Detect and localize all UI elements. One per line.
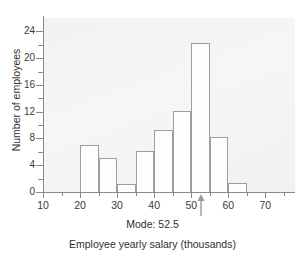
x-axis-tick (117, 193, 118, 198)
y-axis-tick (36, 165, 43, 166)
y-axis-minor-tick (38, 179, 43, 180)
y-axis-tick (36, 138, 43, 139)
x-axis-minor-tick (62, 193, 63, 196)
y-axis-minor-tick (38, 72, 43, 73)
mode-annotation-label: Mode: 52.5 (0, 218, 305, 230)
x-axis-tick (228, 193, 229, 198)
y-axis-tick-label: 0 (7, 187, 35, 197)
y-axis-line (43, 16, 44, 193)
y-axis-minor-tick (38, 98, 43, 99)
histogram-bar (154, 130, 173, 192)
y-axis-tick-label: 24 (7, 26, 35, 36)
y-axis-minor-tick (38, 152, 43, 153)
y-axis-tick (36, 31, 43, 32)
x-axis-tick (154, 193, 155, 198)
histogram-bar (210, 137, 229, 192)
x-axis-tick-label: 40 (139, 199, 169, 211)
histogram-bar (80, 145, 99, 192)
y-axis-minor-tick (38, 45, 43, 46)
y-axis-title: Number of employees (10, 40, 22, 160)
x-axis-tick-label: 10 (28, 199, 58, 211)
histogram-bar (228, 183, 247, 192)
x-axis-tick-label: 20 (65, 199, 95, 211)
x-axis-tick (80, 193, 81, 198)
mode-arrow-icon (197, 194, 205, 216)
histogram-bar (136, 151, 155, 192)
x-axis-tick-label: 60 (213, 199, 243, 211)
x-axis-minor-tick (173, 193, 174, 196)
histogram-bar (173, 111, 192, 192)
x-axis-tick-label: 30 (102, 199, 132, 211)
x-axis-tick (191, 193, 192, 198)
x-axis-minor-tick (284, 193, 285, 196)
histogram-bar (99, 158, 118, 192)
histogram-bar (191, 43, 210, 192)
x-axis-minor-tick (99, 193, 100, 196)
x-axis-minor-tick (210, 193, 211, 196)
y-axis-tick (36, 58, 43, 59)
x-axis-tick (43, 193, 44, 198)
histogram-figure: 04812162024 10203040506070 Number of emp… (0, 0, 305, 256)
x-axis-minor-tick (136, 193, 137, 196)
y-axis-tick (36, 192, 43, 193)
x-axis-tick (265, 193, 266, 198)
y-axis-tick-label: 4 (7, 160, 35, 170)
y-axis-minor-tick (38, 125, 43, 126)
histogram-bar (117, 184, 136, 192)
y-axis-tick (36, 85, 43, 86)
x-axis-title: Employee yearly salary (thousands) (0, 238, 305, 250)
y-axis-tick (36, 112, 43, 113)
x-axis-tick-label: 70 (250, 199, 280, 211)
x-axis-minor-tick (247, 193, 248, 196)
